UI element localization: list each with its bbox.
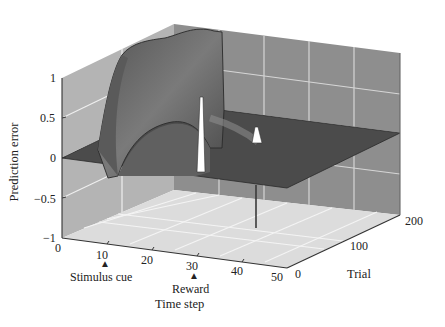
z-tick-0.5: 0.5 <box>40 112 55 124</box>
x-tick-50: 50 <box>271 271 283 283</box>
z-axis-title: Prediction error <box>7 123 22 202</box>
surface-plot <box>0 0 445 327</box>
z-tick-neg1: −1 <box>43 232 56 244</box>
y-tick-200: 200 <box>405 215 423 227</box>
x-axis-title: Time step <box>155 298 204 311</box>
z-tick-neg0.5: −0.5 <box>34 193 56 205</box>
reward-arrow-icon: ▲ <box>189 271 199 281</box>
x-tick-40: 40 <box>231 265 243 277</box>
y-axis-title: Trial <box>347 268 371 281</box>
z-tick-0: 0 <box>50 152 56 164</box>
stimulus-cue-label: Stimulus cue <box>70 271 132 283</box>
y-tick-0: 0 <box>295 268 301 280</box>
x-tick-0: 0 <box>55 242 61 254</box>
x-tick-20: 20 <box>141 254 153 266</box>
stimulus-arrow-icon: ▲ <box>100 259 110 269</box>
z-tick-1: 1 <box>50 72 56 84</box>
y-tick-100: 100 <box>350 240 368 252</box>
reward-label: Reward <box>172 283 209 295</box>
